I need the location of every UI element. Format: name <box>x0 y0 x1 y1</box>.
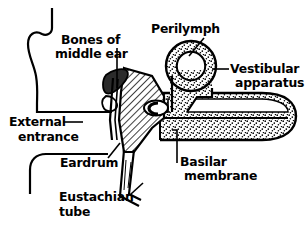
label-eardrum: Eardrum <box>60 155 118 170</box>
label-bones-of-middle-ear-line1: Bones of <box>61 32 121 47</box>
label-eustachian-tube-line2: tube <box>59 204 90 219</box>
label-perilymph: Perilymph <box>151 21 220 36</box>
label-external-entrance-line1: External <box>9 114 66 129</box>
label-bones-of-middle-ear-line2: middle ear <box>55 46 129 61</box>
ear-anatomy-diagram: Bones of middle ear Perilymph Vestibular… <box>0 0 305 232</box>
label-external-entrance-line2: entrance <box>18 129 79 144</box>
label-basilar-membrane-line2: membrane <box>184 168 257 183</box>
oval-window-stapes <box>144 101 168 116</box>
label-eustachian-tube-line1: Eustachian <box>59 189 134 204</box>
ear-diagram-svg: Bones of middle ear Perilymph Vestibular… <box>0 0 305 232</box>
label-basilar-membrane-line1: Basilar <box>180 154 228 169</box>
label-vestibular-apparatus-line1: Vestibular <box>230 61 300 76</box>
label-vestibular-apparatus-line2: apparatus <box>235 75 304 90</box>
vestibular-ring-inner <box>177 52 205 80</box>
